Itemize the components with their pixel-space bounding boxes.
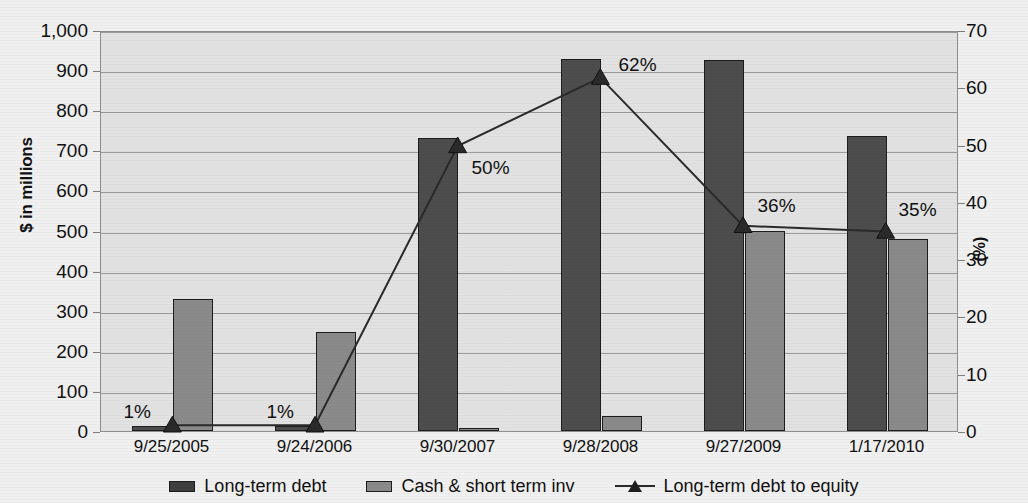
legend-item-cash-and-short-term-inv[interactable]: Cash & short term inv <box>366 477 574 496</box>
y-axis-left-tick-label: 100 <box>10 382 88 401</box>
y-axis-left-tickmark <box>93 111 100 112</box>
y-axis-left-tickmark <box>93 191 100 192</box>
y-axis-left-tickmark <box>93 392 100 393</box>
y-axis-left-tick-label: 1,000 <box>10 21 88 40</box>
legend-item-long-term-debt[interactable]: Long-term debt <box>169 477 326 496</box>
y-axis-left-tickmark <box>93 272 100 273</box>
chart-legend: Long-term debt Cash & short term inv Lon… <box>0 472 1028 500</box>
y-axis-right-tickmark <box>958 88 965 89</box>
y-axis-left-tick-label: 600 <box>10 181 88 200</box>
legend-swatch-line-triangle-icon <box>615 479 655 493</box>
data-label-9-27-2009: 36% <box>758 196 796 215</box>
y-axis-left-tickmark <box>93 151 100 152</box>
legend-label: Long-term debt to equity <box>664 477 859 496</box>
y-axis-left-tickmark <box>93 432 100 433</box>
y-axis-left-tick-label: 300 <box>10 302 88 321</box>
line-path-long-term-debt-to-equity <box>172 78 885 426</box>
x-axis-label-9-24-2006: 9/24/2006 <box>243 438 386 456</box>
y-axis-right-tickmark <box>958 31 965 32</box>
legend-swatch-bar-icon <box>169 481 195 492</box>
y-axis-right-tickmark <box>958 146 965 147</box>
y-axis-right-tick-label: 60 <box>966 78 1026 97</box>
y-axis-left-tick-label: 200 <box>10 342 88 361</box>
y-axis-right-tick-label: 30 <box>966 250 1026 269</box>
y-axis-right-tick-label: 10 <box>966 365 1026 384</box>
y-axis-right-tick-label: 50 <box>966 136 1026 155</box>
line-marker-triangle-icon[interactable] <box>591 69 609 85</box>
legend-item-long-term-debt-to-equity[interactable]: Long-term debt to equity <box>615 477 859 496</box>
data-label-9-30-2007: 50% <box>472 158 510 177</box>
line-marker-triangle-icon[interactable] <box>163 416 181 432</box>
chart-container: $ in millions (%) 0100200300400500600700… <box>0 0 1028 503</box>
y-axis-right-tickmark <box>958 432 965 433</box>
y-axis-left-tick-label: 900 <box>10 61 88 80</box>
data-label-9-28-2008: 62% <box>619 55 657 74</box>
y-axis-right-tickmark <box>958 317 965 318</box>
y-axis-left-tick-label: 500 <box>10 222 88 241</box>
y-axis-right-tickmark <box>958 203 965 204</box>
y-axis-left-tick-label: 0 <box>10 422 88 441</box>
legend-label: Cash & short term inv <box>401 477 574 496</box>
y-axis-left-tickmark <box>93 352 100 353</box>
data-label-9-25-2005: 1% <box>124 402 151 421</box>
legend-swatch-bar-icon <box>366 481 392 492</box>
y-axis-right-tickmark <box>958 260 965 261</box>
x-axis-label-9-28-2008: 9/28/2008 <box>529 438 672 456</box>
y-axis-left-tick-label: 700 <box>10 141 88 160</box>
y-axis-right-tick-label: 70 <box>966 21 1026 40</box>
y-axis-left-tickmark <box>93 31 100 32</box>
line-series-layer <box>101 32 957 431</box>
y-axis-left-tick-label: 800 <box>10 101 88 120</box>
plot-area <box>100 31 958 432</box>
y-axis-left-tickmark <box>93 71 100 72</box>
y-axis-right-tick-label: 40 <box>966 193 1026 212</box>
y-axis-left-tickmark <box>93 312 100 313</box>
y-axis-left-tick-label: 400 <box>10 262 88 281</box>
y-axis-left-tickmark <box>93 232 100 233</box>
y-axis-right-tickmark <box>958 375 965 376</box>
legend-label: Long-term debt <box>204 477 326 496</box>
y-axis-right-tick-label: 0 <box>966 422 1026 441</box>
x-axis-label-9-25-2005: 9/25/2005 <box>100 438 243 456</box>
line-marker-triangle-icon[interactable] <box>306 416 324 432</box>
y-axis-right-tick-label: 20 <box>966 307 1026 326</box>
line-marker-triangle-icon[interactable] <box>449 137 467 153</box>
data-label-9-24-2006: 1% <box>267 402 294 421</box>
data-label-1-17-2010: 35% <box>899 200 937 219</box>
x-axis-label-1-17-2010: 1/17/2010 <box>815 438 958 456</box>
x-axis-label-9-30-2007: 9/30/2007 <box>386 438 529 456</box>
x-axis-label-9-27-2009: 9/27/2009 <box>672 438 815 456</box>
